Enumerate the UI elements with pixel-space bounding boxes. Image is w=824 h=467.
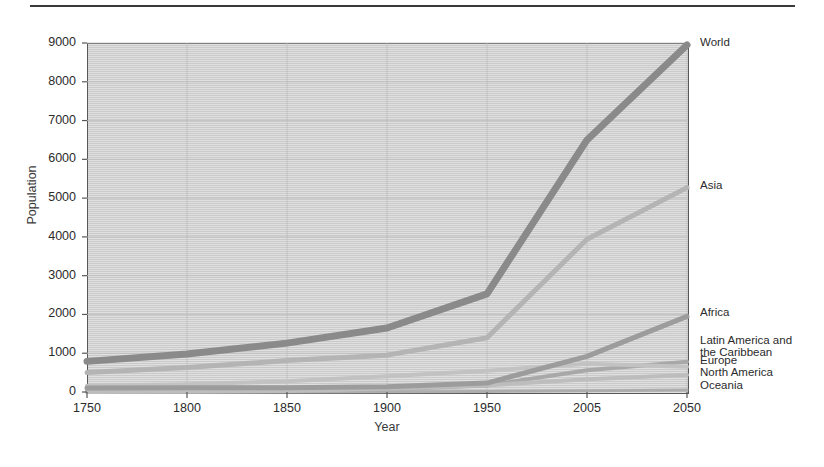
x-tick-label: 1900 [352,401,422,415]
series-label: Asia [700,180,722,192]
y-tick-label: 3000 [16,268,76,282]
y-tick-label: 1000 [16,345,76,359]
axis-tickmarks [82,43,687,398]
series-label-line: Latin America and [700,335,792,347]
x-tick-label: 1750 [52,401,122,415]
y-tick-label: 7000 [16,113,76,127]
x-tick-label: 1950 [452,401,522,415]
series-label: Europe [700,355,737,367]
x-tick-label: 1850 [252,401,322,415]
y-axis-title: Population [25,145,39,245]
population-growth-figure: 0100020003000400050006000700080009000 17… [0,0,824,467]
y-tick-label: 8000 [16,74,76,88]
series-label: World [700,37,730,49]
x-axis-title: Year [352,420,422,434]
y-tick-label: 2000 [16,306,76,320]
y-tick-label: 9000 [16,35,76,49]
series-label: North America [700,367,773,379]
y-tick-label: 0 [16,384,76,398]
gridlines [87,43,687,392]
x-tick-label: 2005 [552,401,622,415]
x-tick-label: 1800 [152,401,222,415]
chart-canvas [0,0,824,467]
series-label: Africa [700,307,729,319]
x-tick-label: 2050 [652,401,722,415]
series-label: Oceania [700,380,743,392]
